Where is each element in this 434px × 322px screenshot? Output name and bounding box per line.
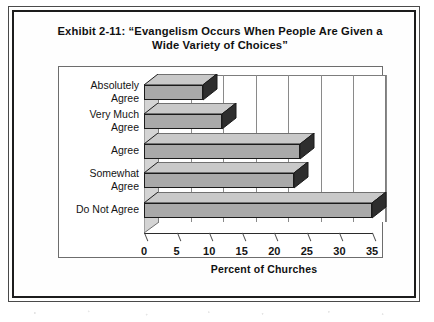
category-label-line: Agree bbox=[59, 121, 139, 134]
bar-side-face bbox=[372, 192, 388, 220]
category-label-line: Do Not Agree bbox=[59, 203, 139, 216]
bar-front-face bbox=[144, 173, 294, 188]
category-label-line: Agree bbox=[59, 92, 139, 105]
bar-front-face bbox=[144, 85, 203, 100]
chart-title: Exhibit 2-11: “Evangelism Occurs When Pe… bbox=[36, 24, 404, 52]
category-label: Do Not Agree bbox=[59, 203, 143, 216]
bar-front-face bbox=[144, 203, 372, 218]
bar bbox=[144, 203, 388, 218]
bar-side-face bbox=[222, 103, 238, 131]
category-label-line: Somewhat bbox=[59, 167, 139, 180]
x-tick-label: 20 bbox=[259, 245, 289, 257]
exhibit-frame: Exhibit 2-11: “Evangelism Occurs When Pe… bbox=[8, 6, 420, 302]
x-tick-label: 15 bbox=[227, 245, 257, 257]
bar-side-face bbox=[300, 133, 316, 161]
bar bbox=[144, 144, 316, 159]
plot-box: 05101520253035 Percent of Churches Absol… bbox=[58, 66, 383, 258]
category-label: Very MuchAgree bbox=[59, 108, 143, 133]
category-label-line: Agree bbox=[59, 144, 139, 157]
x-tick-label: 10 bbox=[194, 245, 224, 257]
x-tick-label: 35 bbox=[357, 245, 387, 257]
category-label: Agree bbox=[59, 144, 143, 157]
bar bbox=[144, 85, 219, 100]
x-tick-label: 5 bbox=[162, 245, 192, 257]
category-label-line: Agree bbox=[59, 180, 139, 193]
x-axis-title: Percent of Churches bbox=[144, 263, 384, 275]
category-label-line: Very Much bbox=[59, 108, 139, 121]
scan-noise bbox=[10, 309, 424, 317]
bar bbox=[144, 114, 238, 129]
bar-front-face bbox=[144, 144, 300, 159]
category-label-line: Absolutely bbox=[59, 79, 139, 92]
x-tick-label: 30 bbox=[324, 245, 354, 257]
x-tick-mark bbox=[372, 233, 376, 242]
exhibit-frame-inner: Exhibit 2-11: “Evangelism Occurs When Pe… bbox=[12, 10, 416, 298]
plot-area: 05101520253035 Percent of Churches bbox=[144, 75, 372, 233]
x-tick-label: 0 bbox=[129, 245, 159, 257]
bar-side-face bbox=[294, 162, 310, 190]
x-tick-label: 25 bbox=[292, 245, 322, 257]
chart-title-line-1: Exhibit 2-11: “Evangelism Occurs When Pe… bbox=[57, 25, 382, 37]
category-label: SomewhatAgree bbox=[59, 167, 143, 192]
bar bbox=[144, 173, 310, 188]
bar-side-face bbox=[203, 74, 219, 102]
bar-front-face bbox=[144, 114, 222, 129]
category-label: AbsolutelyAgree bbox=[59, 79, 143, 104]
chart-title-line-2: Wide Variety of Choices” bbox=[36, 38, 404, 52]
